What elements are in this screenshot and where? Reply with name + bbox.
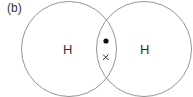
electron-cross-icon bbox=[103, 55, 109, 61]
covalent-bond-diagram bbox=[0, 0, 193, 97]
panel-label: (b) bbox=[7, 2, 22, 14]
electron-dot-icon bbox=[103, 38, 108, 43]
right-atom-symbol: H bbox=[140, 43, 149, 56]
left-atom-symbol: H bbox=[63, 43, 72, 56]
